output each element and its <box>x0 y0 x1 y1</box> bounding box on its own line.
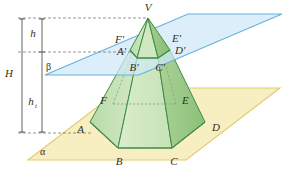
label-A-prime: A' <box>116 45 127 57</box>
label-D: D <box>211 121 220 133</box>
label-F: F <box>99 94 107 106</box>
label-H: H <box>4 67 14 79</box>
label-ht-subscript: t <box>35 102 38 110</box>
label-C: C <box>170 155 178 167</box>
label-B-prime: B' <box>129 61 139 73</box>
label-V: V <box>145 1 153 13</box>
label-E: E <box>181 94 189 106</box>
label-C-prime: C' <box>155 61 165 73</box>
label-ht-base: h <box>28 95 34 107</box>
label-F-prime: F' <box>114 33 125 45</box>
label-B: B <box>116 155 123 167</box>
geometry-figure-container: H h h t β α V F' E' A' D' B' C' F E A D … <box>0 0 284 173</box>
label-h: h <box>30 27 36 39</box>
label-D-prime: D' <box>174 44 186 56</box>
label-plane-beta: β <box>46 61 51 72</box>
label-E-prime: E' <box>171 32 182 44</box>
label-A: A <box>76 123 84 135</box>
label-ht-group: h t <box>28 95 38 110</box>
pyramid-section-diagram: H h h t β α V F' E' A' D' B' C' F E A D … <box>0 0 284 173</box>
label-plane-alpha: α <box>40 146 46 157</box>
